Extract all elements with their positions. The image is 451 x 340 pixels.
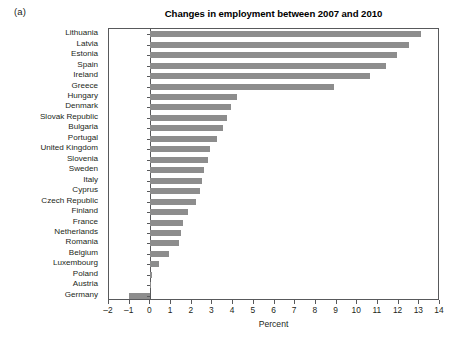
x-axis-tick [170, 300, 171, 304]
y-axis-label: Poland [73, 269, 98, 278]
y-axis-tick [147, 212, 150, 213]
y-axis-label: Sweden [69, 164, 98, 173]
y-axis-tick [147, 118, 150, 119]
x-axis-tick-label: –2 [103, 305, 112, 315]
y-axis-label: Lithuania [65, 28, 98, 37]
bar [150, 63, 386, 69]
y-axis-label: Netherlands [54, 227, 98, 236]
zero-baseline [150, 29, 151, 299]
panel-label: (a) [14, 6, 26, 17]
x-axis-tick-label: 5 [250, 305, 255, 315]
y-axis-label: Spain [77, 60, 98, 69]
y-axis-tick [147, 66, 150, 67]
y-axis-label: Bulgaria [68, 122, 98, 131]
bar [150, 178, 202, 184]
y-axis-label: Italy [83, 175, 98, 184]
x-axis-tick-label: 14 [434, 305, 443, 315]
x-axis-tick-label: 9 [333, 305, 338, 315]
x-axis-tick [274, 300, 275, 304]
plot-area [108, 28, 439, 300]
y-axis-tick [147, 160, 150, 161]
y-axis-tick [147, 233, 150, 234]
x-axis-title: Percent [108, 319, 439, 329]
y-axis-label: Greece [71, 81, 98, 90]
bar [150, 188, 200, 194]
x-axis-tick [439, 300, 440, 304]
x-axis-tick-label: 1 [168, 305, 173, 315]
chart-title: Changes in employment between 2007 and 2… [108, 8, 439, 19]
x-axis-tick-label: 13 [414, 305, 423, 315]
y-axis-tick [147, 34, 150, 35]
x-axis-tick [191, 300, 192, 304]
y-axis-label: Belgium [69, 248, 98, 257]
bar [150, 104, 231, 110]
x-axis-tick-label: 12 [393, 305, 402, 315]
bar [150, 94, 237, 100]
y-axis-label: Czech Republic [41, 196, 98, 205]
y-axis-tick [147, 139, 150, 140]
x-axis-tick [108, 300, 109, 304]
x-axis-tick [149, 300, 150, 304]
bar [150, 199, 196, 205]
x-axis-tick [336, 300, 337, 304]
y-axis-label: Austria [73, 279, 98, 288]
y-axis-label: Slovak Republic [40, 112, 98, 121]
y-axis-tick [147, 264, 150, 265]
bar [150, 136, 216, 142]
bar [150, 209, 187, 215]
y-axis-tick [147, 243, 150, 244]
y-axis-label: France [73, 217, 98, 226]
y-axis-label: Germany [65, 290, 98, 299]
y-axis-tick [147, 285, 150, 286]
y-axis-tick [147, 55, 150, 56]
y-axis-label: Portugal [68, 133, 98, 142]
x-axis-tick [232, 300, 233, 304]
y-axis-tick [147, 107, 150, 108]
bar [150, 84, 334, 90]
y-axis-tick [147, 223, 150, 224]
y-axis-tick [147, 254, 150, 255]
x-axis-tick [418, 300, 419, 304]
y-axis-tick [147, 202, 150, 203]
x-axis-tick-label: 7 [292, 305, 297, 315]
x-axis-tick [356, 300, 357, 304]
bar [150, 52, 396, 58]
x-axis-tick [294, 300, 295, 304]
x-axis-tick-label: 0 [147, 305, 152, 315]
x-axis-tick [129, 300, 130, 304]
bar [150, 73, 369, 79]
x-axis-tick-label: 11 [373, 305, 382, 315]
y-axis-tick [147, 170, 150, 171]
bar [150, 146, 210, 152]
y-axis-label: Finland [71, 206, 98, 215]
bar [150, 251, 169, 257]
x-axis-tick [315, 300, 316, 304]
y-axis-label: Hungary [67, 91, 98, 100]
y-axis-label: Estonia [71, 49, 98, 58]
x-axis-tick [377, 300, 378, 304]
x-axis-tick-label: 8 [313, 305, 318, 315]
y-axis-tick [147, 45, 150, 46]
y-axis-tick [147, 149, 150, 150]
bar [150, 220, 183, 226]
bar [150, 157, 208, 163]
y-axis-tick [147, 87, 150, 88]
bar [150, 167, 204, 173]
bar [150, 272, 152, 278]
y-axis-labels: LithuaniaLatviaEstoniaSpainIrelandGreece… [0, 28, 104, 300]
x-axis-tick-label: 6 [271, 305, 276, 315]
bar [150, 125, 222, 131]
bar [150, 282, 151, 288]
y-axis-label: Ireland [73, 70, 98, 79]
y-axis-label: Denmark [65, 101, 98, 110]
x-axis-tick [398, 300, 399, 304]
y-axis-label: Latvia [76, 39, 98, 48]
y-axis-tick [147, 296, 150, 297]
bar [150, 31, 421, 37]
y-axis-tick [147, 76, 150, 77]
y-axis-label: United Kingdom [40, 143, 98, 152]
y-axis-label: Luxembourg [53, 258, 98, 267]
figure-container: (a) Changes in employment between 2007 a… [0, 0, 451, 340]
y-axis-label: Slovenia [67, 154, 98, 163]
x-axis-tick-label: 2 [188, 305, 193, 315]
